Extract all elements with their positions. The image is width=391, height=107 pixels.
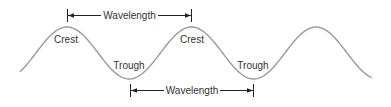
arrowhead-left-icon: [68, 13, 74, 17]
crest-label-2: Crest: [180, 34, 204, 45]
wavelength-label-top: Wavelength: [103, 10, 155, 21]
wave-diagram: Wavelength Wavelength Crest Crest Trough…: [0, 0, 391, 107]
crest-label-1: Crest: [54, 34, 78, 45]
arrowhead-right-icon: [185, 13, 191, 17]
arrowhead-left-icon: [131, 88, 137, 92]
arrowhead-right-icon: [247, 88, 253, 92]
wavelength-label-bottom: Wavelength: [166, 85, 218, 96]
trough-label-1: Trough: [113, 60, 144, 71]
trough-label-2: Trough: [237, 60, 268, 71]
